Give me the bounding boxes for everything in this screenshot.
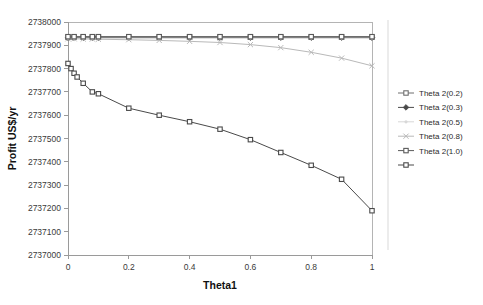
- series-marker: [81, 34, 85, 38]
- series-marker: [69, 66, 73, 70]
- series-marker: [404, 120, 407, 123]
- x-tick-label: 0.4: [184, 262, 196, 272]
- y-tick-label: 2738000: [28, 17, 61, 27]
- series-marker: [218, 34, 222, 38]
- y-tick-label: 2737600: [28, 110, 61, 120]
- series-marker: [187, 34, 191, 38]
- series-marker: [279, 34, 283, 38]
- series-marker: [404, 163, 408, 167]
- series-marker: [248, 34, 252, 38]
- series-marker: [72, 34, 76, 38]
- series-marker: [127, 106, 131, 110]
- series-4: [65, 36, 374, 68]
- x-tick-label: 0: [66, 262, 71, 272]
- plot-area-border: [68, 22, 372, 255]
- series-marker: [309, 34, 313, 38]
- series-marker: [339, 34, 343, 38]
- series-marker: [248, 137, 252, 141]
- series-marker: [187, 120, 191, 124]
- legend-label: Theta 2(0.2): [419, 89, 463, 98]
- x-tick-label: 0.8: [305, 262, 317, 272]
- series-marker: [403, 105, 409, 111]
- x-tick-label: 1: [370, 262, 375, 272]
- series-marker: [370, 34, 374, 38]
- series-marker: [127, 34, 131, 38]
- y-axis-title: Profit US$/yr: [6, 107, 18, 171]
- legend-label: Theta 2(0.3): [419, 103, 463, 112]
- legend-item-3[interactable]: Theta 2(0.5): [398, 118, 463, 127]
- legend-label: Theta 2(0.8): [419, 132, 463, 141]
- y-tick-label: 2737400: [28, 157, 61, 167]
- series-marker: [96, 34, 100, 38]
- series-marker: [66, 34, 70, 38]
- legend-item-4[interactable]: Theta 2(0.8): [398, 132, 463, 141]
- y-tick-label: 2737900: [28, 40, 61, 50]
- y-tick-label: 2737300: [28, 180, 61, 190]
- legend-label: Theta 2(0.5): [419, 118, 463, 127]
- y-tick-label: 2737700: [28, 87, 61, 97]
- legend-item-6[interactable]: [398, 163, 414, 167]
- y-tick-label: 2737100: [28, 227, 61, 237]
- series-marker: [75, 75, 79, 79]
- series-marker: [404, 148, 408, 152]
- series-marker: [96, 92, 100, 96]
- series-marker: [90, 34, 94, 38]
- legend: Theta 2(0.2)Theta 2(0.3)Theta 2(0.5)Thet…: [388, 20, 463, 250]
- legend-label: Theta 2(1.0): [419, 147, 463, 156]
- series-line: [68, 63, 372, 210]
- series-marker: [218, 127, 222, 131]
- y-tick-label: 2737500: [28, 134, 61, 144]
- y-tick-label: 2737000: [28, 250, 61, 260]
- series-marker: [66, 61, 70, 65]
- series-marker: [370, 209, 374, 213]
- series-marker: [279, 150, 283, 154]
- series-marker: [339, 177, 343, 181]
- x-tick-label: 0.6: [244, 262, 256, 272]
- y-tick-label: 2737800: [28, 64, 61, 74]
- series-marker: [309, 163, 313, 167]
- series-marker: [157, 113, 161, 117]
- legend-item-5[interactable]: Theta 2(1.0): [398, 147, 463, 156]
- series-marker: [157, 34, 161, 38]
- y-tick-label: 2737200: [28, 203, 61, 213]
- legend-item-1[interactable]: Theta 2(0.2): [398, 89, 463, 98]
- series-group: [65, 34, 375, 212]
- series-marker: [404, 91, 408, 95]
- x-axis-title: Theta1: [203, 279, 237, 291]
- series-marker: [81, 81, 85, 85]
- legend-item-2[interactable]: Theta 2(0.3): [398, 103, 463, 112]
- series-lower-descending: [66, 61, 374, 213]
- profit-vs-theta1-chart: 2737000273710027372002737300273740027375…: [0, 0, 483, 305]
- chart-container: 2737000273710027372002737300273740027375…: [0, 0, 483, 305]
- x-tick-label: 0.2: [123, 262, 135, 272]
- series-marker: [90, 90, 94, 94]
